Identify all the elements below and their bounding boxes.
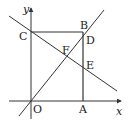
label-x-axis: x <box>116 105 123 118</box>
label-point-o: O <box>33 103 42 116</box>
label-point-c: C <box>19 30 27 43</box>
label-point-d: D <box>86 34 95 47</box>
label-point-a: A <box>78 103 88 116</box>
label-point-b: B <box>80 19 88 32</box>
geometry-diagram: y x C B D F E O A <box>0 0 129 131</box>
label-point-e: E <box>86 59 94 72</box>
label-y-axis: y <box>22 3 30 16</box>
label-point-f: F <box>62 44 70 57</box>
